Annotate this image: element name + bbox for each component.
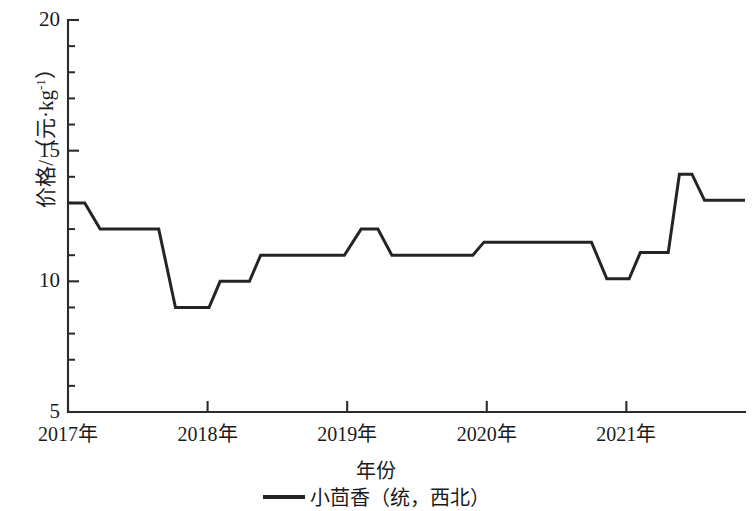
y-axis-tick-label: 10 bbox=[14, 270, 60, 291]
legend-entry-label: 小茴香（统，西北） bbox=[310, 482, 490, 511]
x-axis-tick-label: 2018年 bbox=[143, 424, 273, 444]
chart-legend: 小茴香（统，西北） bbox=[0, 482, 752, 511]
y-axis-title-exponent: -1 bbox=[33, 79, 48, 90]
legend-line-swatch bbox=[263, 495, 305, 499]
x-axis-tick-label: 2020年 bbox=[422, 424, 552, 444]
x-axis-tick-label: 2019年 bbox=[282, 424, 412, 444]
x-axis-title: 年份 bbox=[0, 455, 752, 484]
data-series bbox=[68, 174, 745, 307]
y-axis-tick-label: 5 bbox=[14, 401, 60, 422]
x-axis-tick-label: 2021年 bbox=[561, 424, 691, 444]
axis-spine bbox=[68, 20, 745, 412]
series-line-xiaohuixiang bbox=[68, 174, 745, 307]
x-axis-tick-label: 2017年 bbox=[3, 424, 133, 444]
axes bbox=[68, 20, 745, 412]
y-axis-title: 价格/（元·kg-1） bbox=[29, 3, 59, 263]
